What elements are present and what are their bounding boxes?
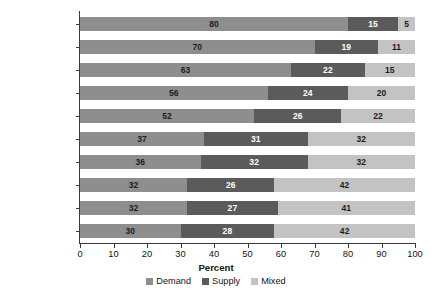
x-axis-tick-label: 20 bbox=[142, 249, 152, 259]
segment-value-label: 26 bbox=[293, 112, 303, 121]
stacked-bar: 322741 bbox=[80, 201, 415, 215]
x-axis-tick-label: 10 bbox=[108, 249, 118, 259]
bar-segment-demand: 36 bbox=[80, 155, 201, 169]
segment-value-label: 41 bbox=[341, 204, 351, 213]
bar-segment-supply: 19 bbox=[315, 40, 379, 54]
x-axis-tick-label: 60 bbox=[276, 249, 286, 259]
segment-value-label: 15 bbox=[368, 20, 378, 29]
x-axis-tick-label: 90 bbox=[376, 249, 386, 259]
segment-value-label: 30 bbox=[125, 227, 135, 236]
x-axis-tick-label: 100 bbox=[407, 249, 423, 259]
bar-segment-demand: 32 bbox=[80, 201, 187, 215]
bar-segment-mixed: 5 bbox=[398, 17, 415, 31]
legend-item-demand[interactable]: Demand bbox=[146, 277, 191, 286]
legend-item-mixed[interactable]: Mixed bbox=[251, 277, 286, 286]
x-axis-tick bbox=[181, 244, 182, 248]
bar-row: LMIC562420 bbox=[80, 86, 415, 100]
bar-segment-mixed: 32 bbox=[308, 155, 415, 169]
bar-segment-supply: 15 bbox=[348, 17, 398, 31]
bar-rows: Central Africa80155Urban701911UMIC632215… bbox=[80, 13, 415, 242]
bar-row: Central Africa80155 bbox=[80, 17, 415, 31]
stacked-bar: 632215 bbox=[80, 63, 415, 77]
bar-segment-supply: 32 bbox=[201, 155, 308, 169]
bar-segment-supply: 31 bbox=[204, 132, 308, 146]
stacked-bar: 80155 bbox=[80, 17, 415, 31]
segment-value-label: 15 bbox=[385, 66, 395, 75]
x-axis-tick bbox=[214, 244, 215, 248]
bar-segment-mixed: 42 bbox=[274, 224, 415, 238]
x-axis-title: Percent bbox=[0, 262, 432, 273]
bar-segment-mixed: 32 bbox=[308, 132, 415, 146]
x-axis-tick bbox=[248, 244, 249, 248]
x-axis-tick bbox=[415, 244, 416, 248]
bar-row: Southern Africa522622 bbox=[80, 109, 415, 123]
bar-segment-mixed: 22 bbox=[341, 109, 415, 123]
stacked-bar: 373132 bbox=[80, 132, 415, 146]
bar-segment-demand: 70 bbox=[80, 40, 315, 54]
legend-swatch-icon bbox=[146, 278, 153, 285]
plot-area: Central Africa80155Urban701911UMIC632215… bbox=[80, 13, 415, 242]
x-axis-tick-label: 40 bbox=[209, 249, 219, 259]
stacked-bar: 322642 bbox=[80, 178, 415, 192]
segment-value-label: 27 bbox=[228, 204, 238, 213]
x-axis-tick bbox=[80, 244, 81, 248]
segment-value-label: 70 bbox=[192, 43, 202, 52]
segment-value-label: 24 bbox=[303, 89, 313, 98]
bar-segment-demand: 63 bbox=[80, 63, 291, 77]
bar-segment-demand: 52 bbox=[80, 109, 254, 123]
bar-segment-demand: 37 bbox=[80, 132, 204, 146]
bar-segment-supply: 26 bbox=[187, 178, 274, 192]
bar-segment-demand: 30 bbox=[80, 224, 181, 238]
legend-item-supply[interactable]: Supply bbox=[202, 277, 240, 286]
legend-swatch-icon bbox=[251, 278, 258, 285]
x-axis-tick bbox=[382, 244, 383, 248]
bar-row: East Africa322642 bbox=[80, 178, 415, 192]
segment-value-label: 19 bbox=[341, 43, 351, 52]
bar-segment-mixed: 42 bbox=[274, 178, 415, 192]
stacked-bar-chart: Central Africa80155Urban701911UMIC632215… bbox=[0, 0, 432, 300]
segment-value-label: 22 bbox=[373, 112, 383, 121]
bar-segment-demand: 80 bbox=[80, 17, 348, 31]
bar-row: Rural322741 bbox=[80, 201, 415, 215]
clipped-chart-title bbox=[0, 0, 432, 1]
segment-value-label: 37 bbox=[137, 135, 147, 144]
bar-segment-mixed: 20 bbox=[348, 86, 415, 100]
segment-value-label: 5 bbox=[404, 20, 409, 29]
bar-segment-mixed: 15 bbox=[365, 63, 415, 77]
legend-swatch-icon bbox=[202, 278, 209, 285]
x-axis-tick-label: 70 bbox=[309, 249, 319, 259]
x-axis-ticks: 0102030405060708090100 bbox=[80, 244, 415, 264]
stacked-bar: 701911 bbox=[80, 40, 415, 54]
segment-value-label: 56 bbox=[169, 89, 179, 98]
x-axis-tick bbox=[348, 244, 349, 248]
segment-value-label: 32 bbox=[129, 181, 139, 190]
segment-value-label: 42 bbox=[340, 181, 350, 190]
stacked-bar: 363232 bbox=[80, 155, 415, 169]
segment-value-label: 32 bbox=[249, 158, 259, 167]
segment-value-label: 31 bbox=[251, 135, 261, 144]
segment-value-label: 80 bbox=[209, 20, 219, 29]
x-axis-tick bbox=[315, 244, 316, 248]
segment-value-label: 42 bbox=[340, 227, 350, 236]
legend-label: Demand bbox=[156, 277, 191, 286]
x-axis-tick-label: 0 bbox=[77, 249, 82, 259]
x-axis-tick-label: 50 bbox=[242, 249, 252, 259]
segment-value-label: 32 bbox=[357, 135, 367, 144]
bar-segment-supply: 24 bbox=[268, 86, 348, 100]
x-axis-tick bbox=[281, 244, 282, 248]
bar-segment-supply: 28 bbox=[181, 224, 275, 238]
segment-value-label: 22 bbox=[323, 66, 333, 75]
bar-segment-supply: 26 bbox=[254, 109, 341, 123]
bar-row: LIC302842 bbox=[80, 224, 415, 238]
bar-segment-mixed: 41 bbox=[278, 201, 415, 215]
x-axis-tick-label: 30 bbox=[175, 249, 185, 259]
bar-segment-supply: 27 bbox=[187, 201, 277, 215]
bar-row: West Africa363232 bbox=[80, 155, 415, 169]
bar-segment-demand: 32 bbox=[80, 178, 187, 192]
chart-legend: DemandSupplyMixed bbox=[0, 277, 432, 286]
segment-value-label: 36 bbox=[135, 158, 145, 167]
bar-row: Africa373132 bbox=[80, 132, 415, 146]
legend-label: Mixed bbox=[261, 277, 286, 286]
segment-value-label: 52 bbox=[162, 112, 172, 121]
bar-segment-demand: 56 bbox=[80, 86, 268, 100]
